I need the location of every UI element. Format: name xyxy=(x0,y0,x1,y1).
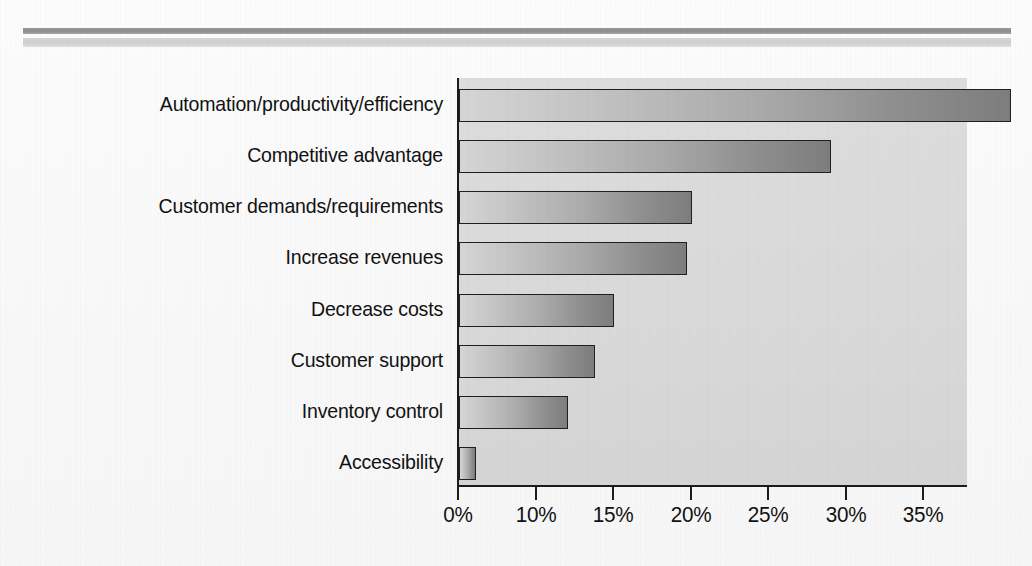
bar xyxy=(459,447,476,480)
category-label: Decrease costs xyxy=(34,297,443,321)
axis-tick xyxy=(767,487,769,500)
axis-tick xyxy=(922,487,924,500)
axis-tick-label: 35% xyxy=(881,502,966,528)
category-label: Competitive advantage xyxy=(34,143,443,167)
axis-tick-label: 15% xyxy=(571,502,656,528)
bar-row xyxy=(459,140,969,173)
category-label: Accessibility xyxy=(34,450,443,474)
axis-tick-label: 0% xyxy=(416,502,501,528)
category-label: Increase revenues xyxy=(34,245,443,269)
page-root: Automation/productivity/efficiencyCompet… xyxy=(0,0,1032,566)
category-label: Inventory control xyxy=(34,399,443,423)
bar xyxy=(459,242,687,275)
category-label: Customer demands/requirements xyxy=(34,194,443,218)
bar-row xyxy=(459,447,969,480)
axis-tick xyxy=(612,487,614,500)
bar xyxy=(459,345,595,378)
bar xyxy=(459,191,692,224)
bar-row xyxy=(459,345,969,378)
bar-row xyxy=(459,294,969,327)
axis-tick-label: 20% xyxy=(649,502,734,528)
category-label: Automation/productivity/efficiency xyxy=(34,92,443,116)
bars-layer xyxy=(459,78,967,485)
axis-tick xyxy=(845,487,847,500)
bar-chart: Automation/productivity/efficiencyCompet… xyxy=(0,0,1032,566)
axis-tick xyxy=(457,487,459,500)
axis-tick-label: 30% xyxy=(804,502,889,528)
axis-tick-label: 10% xyxy=(494,502,579,528)
bar-row xyxy=(459,89,969,122)
axis-tick xyxy=(535,487,537,500)
bar-row xyxy=(459,242,969,275)
bar-row xyxy=(459,191,969,224)
bar-row xyxy=(459,396,969,429)
bar xyxy=(459,294,614,327)
plot-area xyxy=(457,78,967,487)
axis-tick xyxy=(690,487,692,500)
bar xyxy=(459,396,568,429)
axis-tick-label: 25% xyxy=(726,502,811,528)
bar xyxy=(459,89,1011,122)
bar xyxy=(459,140,831,173)
category-label: Customer support xyxy=(34,348,443,372)
